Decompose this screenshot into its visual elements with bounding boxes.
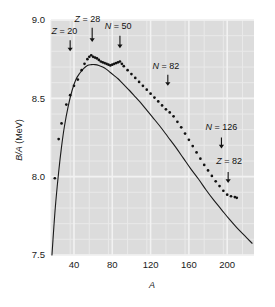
data-point	[121, 63, 124, 66]
data-point	[126, 69, 129, 72]
data-point	[138, 81, 141, 84]
x-axis-tick-labels: 4080120160200	[69, 259, 235, 270]
y-tick-label: 7.5	[32, 249, 45, 260]
data-point	[60, 122, 63, 125]
data-point	[80, 69, 83, 72]
data-point	[203, 164, 206, 167]
data-point	[145, 88, 148, 91]
data-point	[180, 126, 183, 129]
data-point	[130, 73, 133, 76]
binding-energy-figure: Z = 20Z = 28N = 50N = 82N = 126Z = 82 40…	[0, 0, 275, 307]
annotation-label-n82: N = 82	[153, 61, 180, 71]
data-point	[122, 65, 125, 68]
data-point	[86, 58, 89, 61]
data-point	[184, 132, 187, 135]
data-point	[157, 100, 160, 103]
x-tick-label: 160	[181, 259, 197, 270]
data-point	[207, 169, 210, 172]
data-point	[65, 103, 68, 106]
chart-canvas: Z = 20Z = 28N = 50N = 82N = 126Z = 82 40…	[0, 0, 275, 307]
data-point	[188, 139, 191, 142]
data-point	[119, 60, 122, 63]
data-point	[222, 189, 225, 192]
data-point	[230, 195, 233, 198]
y-axis-tick-labels: 7.58.08.59.0	[32, 14, 45, 260]
data-point	[218, 185, 221, 188]
data-point	[153, 96, 156, 99]
annotation-label-z82: Z = 82	[215, 156, 242, 166]
data-point	[168, 111, 171, 114]
annotation-label-z28: Z = 28	[73, 14, 100, 24]
data-point	[176, 120, 179, 123]
data-point	[76, 78, 79, 81]
y-tick-label: 8.0	[32, 171, 45, 182]
x-tick-label: 80	[107, 259, 118, 270]
annotation-label-n50: N = 50	[105, 21, 132, 31]
data-point	[69, 94, 72, 97]
data-point	[142, 84, 145, 87]
data-point	[211, 175, 214, 178]
data-point	[199, 157, 202, 160]
data-point	[53, 177, 56, 180]
data-point	[161, 104, 164, 107]
data-point	[214, 180, 217, 183]
y-tick-label: 9.0	[32, 14, 45, 25]
annotation-label-n126: N = 126	[206, 122, 238, 132]
data-point	[83, 63, 86, 66]
x-tick-label: 120	[143, 259, 159, 270]
data-point	[235, 196, 238, 199]
x-tick-label: 200	[219, 259, 235, 270]
data-point	[73, 84, 76, 87]
y-axis-label: B/A (MeV)	[14, 119, 24, 161]
data-point	[191, 145, 194, 148]
x-tick-label: 40	[69, 259, 80, 270]
data-point	[57, 138, 60, 141]
data-point	[149, 92, 152, 95]
x-axis-label: A	[148, 280, 155, 290]
data-point	[172, 115, 175, 118]
data-point	[195, 151, 198, 154]
data-point	[165, 108, 168, 111]
data-point	[226, 193, 229, 196]
y-tick-label: 8.5	[32, 93, 45, 104]
annotation-label-z20: Z = 20	[51, 26, 78, 36]
data-point	[134, 77, 137, 80]
